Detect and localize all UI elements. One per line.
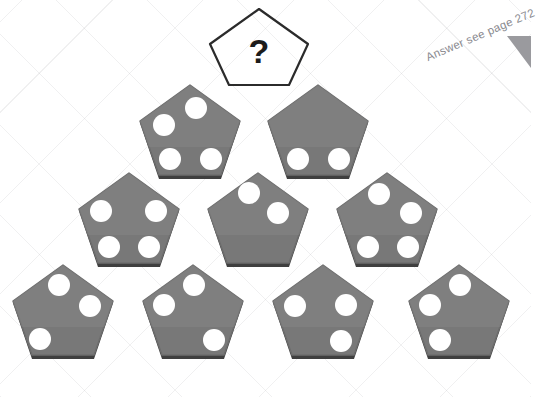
tile-r3-c2 [203, 171, 313, 271]
tile-r3-c3 [332, 171, 442, 271]
pip [267, 202, 289, 224]
pip [397, 236, 419, 258]
tile-r3-c1 [74, 171, 184, 271]
pip [153, 294, 175, 316]
question-mark-label: ? [249, 32, 270, 70]
corner-wedge-decoration [489, 36, 531, 76]
pip [419, 294, 441, 316]
pip [183, 274, 205, 296]
pip [48, 274, 70, 296]
pip [335, 294, 357, 316]
tile-r4-c1 [8, 263, 118, 363]
pip [159, 148, 181, 170]
tile-r4-c3 [268, 263, 378, 363]
tile-body [268, 85, 368, 179]
pip [138, 236, 160, 258]
pip [330, 330, 352, 352]
pip [200, 148, 222, 170]
pip [185, 97, 207, 119]
pip [79, 295, 101, 317]
tile-body [79, 173, 179, 267]
pip [90, 200, 112, 222]
pip [284, 295, 306, 317]
pip [357, 236, 379, 258]
pip [328, 148, 350, 170]
pip [238, 182, 260, 204]
pip [368, 183, 390, 205]
tile-r2-c1 [135, 83, 245, 183]
tile-r4-c4 [404, 263, 514, 363]
question-tile: ? [207, 6, 311, 86]
pip [29, 328, 51, 350]
tile-r2-c2 [263, 83, 373, 183]
pip [400, 202, 422, 224]
pip [449, 274, 471, 296]
pip [287, 148, 309, 170]
tile-r4-c2 [138, 263, 248, 363]
pip [153, 114, 175, 136]
pip [145, 200, 167, 222]
pip [203, 329, 225, 351]
pip [429, 329, 451, 351]
pip [98, 236, 120, 258]
